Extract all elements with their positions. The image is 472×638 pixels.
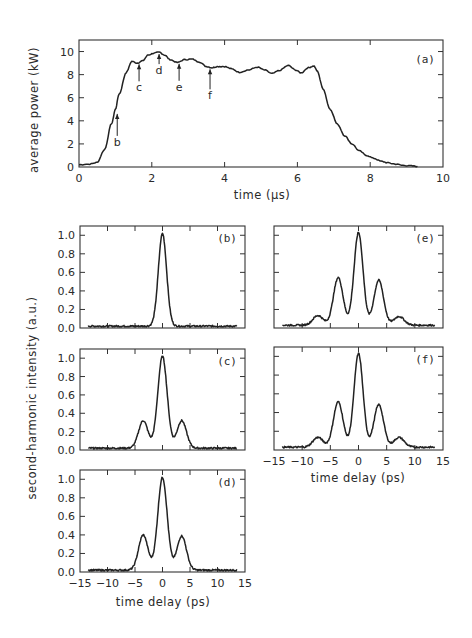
y-tick-label: 0.2 — [58, 303, 76, 316]
x-tick-label: 6 — [294, 172, 301, 185]
x-tick-label: 10 — [211, 577, 225, 590]
panel-e-autocorrelation: (e) — [274, 226, 443, 328]
y-tick-label: 10 — [60, 46, 74, 59]
y-tick-label: 0.4 — [58, 407, 76, 420]
y-tick-label: 0.0 — [58, 444, 76, 457]
y-tick-label: 0.4 — [58, 529, 76, 542]
x-tick-label: −5 — [127, 577, 143, 590]
annotation-label: e — [176, 81, 183, 94]
y-tick-label: 0.2 — [58, 426, 76, 439]
panel-f-autocorrelation: −15−10−5051015(f) — [262, 347, 450, 468]
annotation-arrow-f: f — [208, 69, 213, 102]
panel-c-autocorrelation: 0.00.20.40.60.81.0(c) — [58, 349, 246, 457]
y-tick-label: 0.8 — [58, 371, 76, 384]
annotation-arrow-b: b — [114, 114, 121, 149]
bottom-y-axis-title: second-harmonic intensity (a.u.) — [25, 297, 39, 500]
y-tick-label: 1.0 — [58, 229, 76, 242]
panel-label: (a) — [415, 53, 435, 66]
data-curve — [88, 477, 236, 571]
y-tick-label: 0.0 — [58, 322, 76, 335]
data-curve — [282, 232, 434, 326]
panel-label: (f) — [415, 353, 435, 366]
y-tick-label: 4 — [67, 115, 74, 128]
y-tick-label: 0.4 — [58, 285, 76, 298]
y-tick-label: 0.6 — [58, 266, 76, 279]
y-tick-label: 0.8 — [58, 492, 76, 505]
x-tick-label: 15 — [436, 455, 450, 468]
y-tick-label: 0.6 — [58, 510, 76, 523]
annotation-label: d — [156, 64, 163, 77]
panel-label: (c) — [217, 355, 237, 368]
x-tick-label: 0 — [355, 455, 362, 468]
y-tick-label: 0 — [67, 161, 74, 174]
x-tick-label: 5 — [187, 577, 194, 590]
x-tick-label: −10 — [291, 455, 314, 468]
data-curve — [79, 52, 418, 167]
panel-d-autocorrelation: −15−10−50510150.00.20.40.60.81.0(d) — [58, 470, 253, 590]
annotation-arrow-c: c — [136, 64, 142, 94]
data-curve — [88, 356, 236, 449]
x-tick-label: 10 — [408, 455, 422, 468]
figure: 02468100246810(a)bcdef 0.00.20.40.60.81.… — [0, 0, 472, 638]
y-tick-label: 0.8 — [58, 248, 76, 261]
bottom-left-x-axis-title: time delay (ps) — [116, 595, 210, 609]
y-tick-label: 6 — [67, 92, 74, 105]
annotation-arrow-e: e — [176, 64, 183, 94]
annotation-label: c — [136, 81, 142, 94]
y-tick-label: 0.6 — [58, 389, 76, 402]
top-y-axis-title: average power (kW) — [27, 47, 41, 173]
bottom-right-x-axis-title: time delay (ps) — [311, 471, 405, 485]
x-tick-label: 10 — [436, 172, 450, 185]
panel-label: (e) — [415, 232, 435, 245]
panel-label: (b) — [217, 232, 237, 245]
y-tick-label: 0.2 — [58, 547, 76, 560]
x-tick-label: 4 — [221, 172, 228, 185]
y-tick-label: 0.0 — [58, 566, 76, 579]
x-tick-label: 0 — [159, 577, 166, 590]
plot-frame — [79, 40, 443, 167]
x-tick-label: 8 — [367, 172, 374, 185]
y-tick-label: 2 — [67, 138, 74, 151]
annotation-label: f — [208, 89, 213, 102]
x-tick-label: −10 — [96, 577, 119, 590]
x-tick-label: 2 — [148, 172, 155, 185]
x-tick-label: −5 — [322, 455, 338, 468]
panel-label: (d) — [217, 476, 237, 489]
y-tick-label: 8 — [67, 69, 74, 82]
panel-b-autocorrelation: 0.00.20.40.60.81.0(b) — [58, 226, 246, 335]
annotation-label: b — [114, 136, 121, 149]
top-x-axis-title: time (µs) — [234, 188, 290, 202]
x-tick-label: 15 — [238, 577, 252, 590]
annotation-arrow-d: d — [156, 54, 163, 77]
panel-a-average-power: 02468100246810(a)bcdef — [60, 40, 450, 185]
x-tick-label: −15 — [262, 455, 285, 468]
x-tick-label: 5 — [383, 455, 390, 468]
x-tick-label: 0 — [76, 172, 83, 185]
y-tick-label: 1.0 — [58, 352, 76, 365]
data-curve — [282, 353, 434, 448]
y-tick-label: 1.0 — [58, 473, 76, 486]
data-curve — [88, 233, 236, 327]
